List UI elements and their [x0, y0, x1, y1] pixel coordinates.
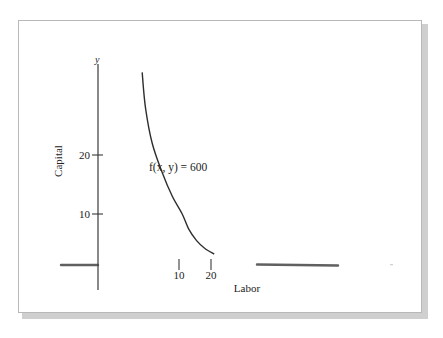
chart: y 1020 1020 Capital Labor f(x, y) = 600 … — [0, 0, 443, 338]
x-tick-label: 10 — [174, 269, 186, 281]
curve-label: f(x, y) = 600 — [149, 161, 207, 174]
y-axis-variable: y — [94, 54, 100, 65]
y-tick-label: 10 — [79, 208, 91, 220]
y-ticks: 1020 — [79, 149, 103, 220]
x-axis-label: Labor — [234, 282, 261, 294]
x-tick-label: 20 — [206, 269, 218, 281]
x-ticks: 1020 — [174, 259, 218, 281]
y-tick-label: 20 — [79, 149, 91, 161]
y-axis-label: Capital — [52, 145, 64, 177]
stray-mark: " — [390, 262, 393, 270]
x-axis-middle-segment — [257, 265, 338, 266]
